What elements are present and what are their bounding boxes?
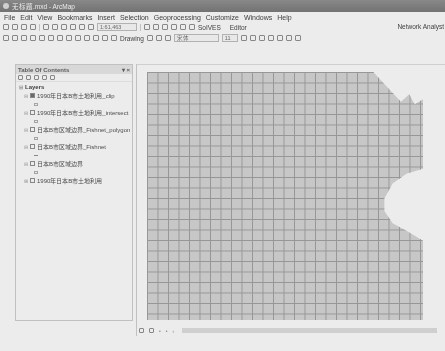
measure-icon[interactable] bbox=[93, 35, 99, 41]
layer-item[interactable]: ⊟ 1990年日本B市土地利用_intersect bbox=[18, 108, 132, 117]
layer-item[interactable]: ⊟ 日本B市区域边界_Fishnet bbox=[18, 142, 132, 151]
layer-item[interactable]: ⊞ 1990年日本B市土地利用 bbox=[18, 176, 132, 185]
font-size-combo[interactable]: 11 bbox=[222, 34, 238, 42]
layer-legend bbox=[18, 117, 132, 125]
menu-edit[interactable]: Edit bbox=[20, 14, 32, 21]
menu-help[interactable]: Help bbox=[277, 14, 291, 21]
html-popup-icon[interactable] bbox=[111, 35, 117, 41]
network-analyst-menu[interactable]: Network Analyst bbox=[397, 22, 444, 32]
save-icon[interactable] bbox=[21, 24, 27, 30]
layer-visibility-checkbox[interactable] bbox=[30, 161, 35, 166]
collapse-icon[interactable]: ⊟ bbox=[23, 110, 28, 116]
options-icon[interactable] bbox=[50, 75, 55, 80]
layers-root-label: Layers bbox=[25, 84, 44, 90]
rectangle-icon[interactable] bbox=[156, 35, 162, 41]
layer-visibility-checkbox[interactable] bbox=[30, 144, 35, 149]
new-icon[interactable] bbox=[3, 24, 9, 30]
fill-color-icon[interactable] bbox=[277, 35, 283, 41]
menu-selection[interactable]: Selection bbox=[120, 14, 149, 21]
layer-item[interactable]: ⊟ 1990年日本B市土地利用_clip bbox=[18, 91, 132, 100]
cut-icon[interactable] bbox=[43, 24, 49, 30]
refresh-icon[interactable]: • bbox=[159, 328, 161, 334]
toc-layer-list: ⊟ Layers ⊟ 1990年日本B市土地利用_clip ⊟ 1990年日本B… bbox=[16, 82, 132, 185]
menu-bookmarks[interactable]: Bookmarks bbox=[57, 14, 92, 21]
pause-icon[interactable]: • bbox=[166, 328, 168, 334]
toc-pin-close-buttons[interactable]: ▾ × bbox=[122, 66, 130, 73]
python-icon[interactable] bbox=[189, 24, 195, 30]
layout-view-icon[interactable] bbox=[139, 328, 144, 333]
menu-customize[interactable]: Customize bbox=[206, 14, 239, 21]
font-combo[interactable]: 宋体 bbox=[174, 34, 219, 42]
select-elements-icon[interactable] bbox=[147, 35, 153, 41]
full-extent-icon[interactable] bbox=[30, 35, 36, 41]
data-view-icon[interactable] bbox=[149, 328, 154, 333]
editor-toolbar-icon[interactable] bbox=[144, 24, 150, 30]
redo-icon[interactable] bbox=[79, 24, 85, 30]
menu-view[interactable]: View bbox=[37, 14, 52, 21]
zoom-in-icon[interactable] bbox=[3, 35, 9, 41]
open-icon[interactable] bbox=[12, 24, 18, 30]
list-by-visibility-icon[interactable] bbox=[34, 75, 39, 80]
text-icon[interactable] bbox=[165, 35, 171, 41]
pan-icon[interactable] bbox=[21, 35, 27, 41]
list-by-selection-icon[interactable] bbox=[42, 75, 47, 80]
polygon-swatch-icon bbox=[34, 103, 38, 106]
menu-windows[interactable]: Windows bbox=[244, 14, 272, 21]
layers-root[interactable]: ⊟ Layers bbox=[18, 82, 132, 91]
table-of-contents-panel: Table Of Contents ▾ × ⊟ Layers ⊟ 1990年日本… bbox=[15, 64, 133, 321]
hyperlink-icon[interactable] bbox=[102, 35, 108, 41]
fixed-zoom-in-icon[interactable] bbox=[39, 35, 45, 41]
line-color-icon[interactable] bbox=[286, 35, 292, 41]
select-features-icon[interactable] bbox=[66, 35, 72, 41]
list-by-drawing-order-icon[interactable] bbox=[18, 75, 23, 80]
arctoolbox-icon[interactable] bbox=[180, 24, 186, 30]
menu-insert[interactable]: Insert bbox=[97, 14, 115, 21]
marker-color-icon[interactable] bbox=[295, 35, 301, 41]
layer-visibility-checkbox[interactable] bbox=[30, 110, 35, 115]
title-bar: 无标题.mxd - ArcMap bbox=[0, 0, 445, 12]
layer-name: 1990年日本B市土地利用 bbox=[37, 176, 102, 185]
forward-extent-icon[interactable] bbox=[57, 35, 63, 41]
polygon-swatch-icon bbox=[34, 137, 38, 140]
underline-icon[interactable] bbox=[259, 35, 265, 41]
collapse-icon[interactable]: ⊟ bbox=[23, 93, 28, 99]
scroll-left-icon[interactable]: ‹ bbox=[173, 328, 175, 334]
collapse-icon[interactable]: ⊟ bbox=[23, 144, 28, 150]
collapse-icon[interactable]: ⊟ bbox=[18, 84, 23, 90]
search-window-icon[interactable] bbox=[171, 24, 177, 30]
menu-geoprocessing[interactable]: Geoprocessing bbox=[154, 14, 201, 21]
font-color-icon[interactable] bbox=[268, 35, 274, 41]
solves-menu[interactable]: SoIVES bbox=[198, 24, 221, 31]
layer-visibility-checkbox[interactable] bbox=[30, 178, 35, 183]
layer-item[interactable]: ⊟ 日本B市区域边界 bbox=[18, 159, 132, 168]
zoom-out-icon[interactable] bbox=[12, 35, 18, 41]
layer-visibility-checkbox[interactable] bbox=[30, 127, 35, 132]
paste-icon[interactable] bbox=[61, 24, 67, 30]
undo-icon[interactable] bbox=[70, 24, 76, 30]
expand-icon[interactable]: ⊞ bbox=[23, 178, 28, 184]
collapse-icon[interactable]: ⊟ bbox=[23, 127, 28, 133]
toc-window-icon[interactable] bbox=[153, 24, 159, 30]
horizontal-scrollbar[interactable] bbox=[182, 328, 437, 333]
collapse-icon[interactable]: ⊟ bbox=[23, 161, 28, 167]
add-data-icon[interactable] bbox=[88, 24, 94, 30]
back-extent-icon[interactable] bbox=[48, 35, 54, 41]
map-view-controls: • • ‹ bbox=[137, 326, 437, 335]
toc-header: Table Of Contents ▾ × bbox=[16, 65, 132, 74]
copy-icon[interactable] bbox=[52, 24, 58, 30]
map-scale-combo[interactable]: 1:61,463 bbox=[97, 23, 137, 31]
layer-name: 日本B市区域边界 bbox=[37, 159, 83, 168]
find-icon[interactable] bbox=[84, 35, 90, 41]
layer-visibility-checkbox[interactable] bbox=[30, 93, 35, 98]
menu-file[interactable]: File bbox=[4, 14, 15, 21]
layer-item[interactable]: ⊟ 日本B市区域边界_Fishnet_polygon bbox=[18, 125, 132, 134]
identify-icon[interactable] bbox=[75, 35, 81, 41]
drawing-menu[interactable]: Drawing bbox=[120, 35, 144, 42]
bold-icon[interactable] bbox=[241, 35, 247, 41]
fishnet-map-layer[interactable] bbox=[147, 72, 423, 320]
catalog-window-icon[interactable] bbox=[162, 24, 168, 30]
italic-icon[interactable] bbox=[250, 35, 256, 41]
list-by-source-icon[interactable] bbox=[26, 75, 31, 80]
editor-menu[interactable]: Editor bbox=[230, 24, 247, 31]
print-icon[interactable] bbox=[30, 24, 36, 30]
